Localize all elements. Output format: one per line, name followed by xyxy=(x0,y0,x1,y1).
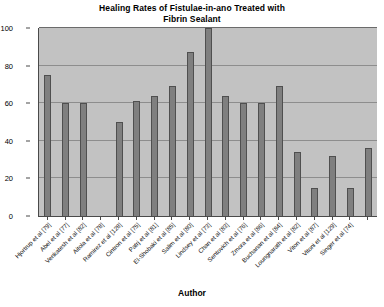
bar-slot xyxy=(164,28,182,216)
chart-title-line-2: Fibrin Sealant xyxy=(0,14,384,25)
bar xyxy=(151,96,158,216)
bar xyxy=(133,101,140,216)
y-tick-mark xyxy=(26,28,30,29)
y-tick-label: 40 xyxy=(5,136,13,145)
bar-slot xyxy=(181,28,199,216)
bar-slot xyxy=(199,28,217,216)
y-tick-label: 80 xyxy=(5,61,13,70)
y-tick-label: 100 xyxy=(0,24,13,33)
bar-slot xyxy=(110,28,128,216)
x-tick-mark xyxy=(136,217,137,220)
bar xyxy=(294,152,301,216)
bar-chart-figure: Healing Rates of Fistulae-in-ano Treated… xyxy=(0,0,384,307)
x-label-slot xyxy=(358,221,376,287)
bar xyxy=(62,103,69,216)
bar-slot xyxy=(128,28,146,216)
x-tick-mark xyxy=(225,217,226,220)
bar-slot xyxy=(306,28,324,216)
bar xyxy=(205,28,212,216)
x-label-slot: Singer et al [74] xyxy=(341,221,359,287)
plot-area xyxy=(38,28,377,217)
bar xyxy=(240,103,247,216)
bar xyxy=(44,75,51,216)
y-tick-mark xyxy=(26,216,30,217)
y-tick-mark xyxy=(26,140,30,141)
bar-slot xyxy=(270,28,288,216)
bar xyxy=(329,156,336,216)
x-tick-mark xyxy=(118,217,119,220)
bars-container xyxy=(39,28,377,216)
bar-slot xyxy=(39,28,57,216)
y-axis: 020406080100 xyxy=(0,0,38,307)
chart-title: Healing Rates of Fistulae-in-ano Treated… xyxy=(0,3,384,25)
x-tick-mark xyxy=(296,217,297,220)
x-tick-mark xyxy=(332,217,333,220)
y-tick-label: 60 xyxy=(5,99,13,108)
chart-title-line-1: Healing Rates of Fistulae-in-ano Treated… xyxy=(0,3,384,14)
x-tick-mark xyxy=(314,217,315,220)
x-tick-mark xyxy=(82,217,83,220)
x-tick-mark xyxy=(349,217,350,220)
bar xyxy=(80,103,87,216)
bar xyxy=(258,103,265,216)
y-tick-label: 20 xyxy=(5,174,13,183)
x-tick-mark xyxy=(367,217,368,220)
bar-slot xyxy=(75,28,93,216)
bar xyxy=(347,188,354,216)
bar xyxy=(276,86,283,216)
x-tick-mark xyxy=(154,217,155,220)
bar-slot xyxy=(342,28,360,216)
bar-slot xyxy=(92,28,110,216)
bar xyxy=(169,86,176,216)
bar-slot xyxy=(217,28,235,216)
x-tick-mark xyxy=(100,217,101,220)
x-tick-mark xyxy=(278,217,279,220)
x-axis-labels: Hjortrup et al [79]Abel et al [77]Venkat… xyxy=(38,221,376,287)
bar-slot xyxy=(57,28,75,216)
bar xyxy=(187,52,194,216)
y-tick-mark xyxy=(26,65,30,66)
x-tick-mark xyxy=(189,217,190,220)
bar-slot xyxy=(359,28,377,216)
y-tick-label: 0 xyxy=(9,212,13,221)
y-tick-mark xyxy=(26,103,30,104)
bar xyxy=(222,96,229,216)
x-tick-mark xyxy=(47,217,48,220)
x-axis-title: Author xyxy=(0,288,384,298)
bar-slot xyxy=(253,28,271,216)
x-tick-mark xyxy=(260,217,261,220)
x-tick-mark xyxy=(171,217,172,220)
bar xyxy=(365,148,372,216)
bar-slot xyxy=(235,28,253,216)
bar-slot xyxy=(324,28,342,216)
x-tick-mark xyxy=(65,217,66,220)
bar-slot xyxy=(288,28,306,216)
x-tick-mark xyxy=(207,217,208,220)
bar-slot xyxy=(146,28,164,216)
bar xyxy=(116,122,123,216)
bar xyxy=(311,188,318,216)
y-tick-mark xyxy=(26,178,30,179)
